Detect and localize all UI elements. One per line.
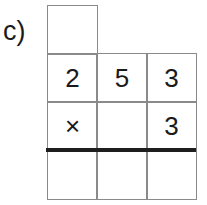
digit-cell	[96, 101, 148, 151]
answer-cell[interactable]	[146, 149, 197, 200]
answer-cell[interactable]	[47, 149, 98, 200]
digit-cell: 2	[47, 53, 98, 103]
multiply-sign: ×	[47, 101, 98, 151]
answer-cell[interactable]	[96, 149, 148, 200]
problem-label: c)	[3, 18, 26, 45]
digit-cell: 3	[146, 53, 197, 103]
digit-cell: 5	[96, 53, 148, 103]
result-divider-line	[46, 148, 196, 152]
digit-cell: 3	[146, 101, 197, 151]
carry-cell[interactable]	[47, 5, 98, 55]
